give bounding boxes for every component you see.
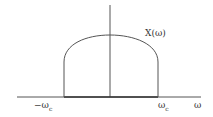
left-cutoff-symbol: −ω bbox=[34, 100, 49, 110]
right-cutoff-label: ωc bbox=[158, 101, 169, 112]
left-cutoff-label: −ωc bbox=[34, 101, 52, 112]
spectrum-curve bbox=[64, 35, 158, 97]
function-label: X(ω) bbox=[145, 29, 166, 38]
axis-label-omega: ω bbox=[194, 101, 201, 110]
spectrum-diagram bbox=[0, 0, 213, 117]
right-cutoff-subscript: c bbox=[165, 105, 168, 112]
left-cutoff-subscript: c bbox=[49, 105, 52, 112]
